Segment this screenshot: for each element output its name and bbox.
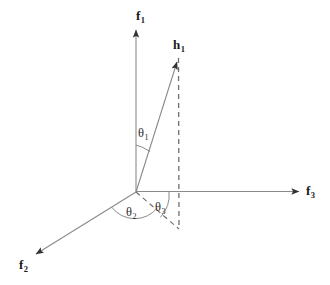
f3-label-subscript: 3	[311, 190, 315, 200]
f2-label-subscript: 2	[24, 264, 28, 274]
f2-axis-label: f2	[19, 258, 28, 271]
f3-label-main: f	[306, 183, 310, 198]
f3-axis-label: f3	[306, 184, 315, 197]
f1-label-subscript: 1	[141, 15, 145, 25]
theta-2-label: θ2	[126, 206, 136, 219]
f1-label-main: f	[136, 8, 140, 23]
theta-2-symbol: θ	[126, 205, 132, 219]
h1-vector-label: h1	[173, 38, 184, 51]
h1-label-main: h	[173, 37, 180, 52]
theta-3-subscript: 3	[162, 207, 166, 216]
f2-axis-line	[36, 192, 136, 254]
h1-vertical-projection-line	[179, 58, 180, 229]
h1-label-subscript: 1	[181, 44, 185, 54]
vector-diagram-figure: f1 h1 f3 f2 θ1 θ2 θ3	[0, 0, 330, 285]
f1-axis-label: f1	[136, 9, 145, 22]
theta-1-symbol: θ	[138, 126, 144, 140]
theta-2-subscript: 2	[133, 212, 137, 221]
theta-1-label: θ1	[138, 127, 148, 140]
theta-3-label: θ3	[155, 201, 165, 214]
theta-1-subscript: 1	[145, 133, 149, 142]
theta-1-arc	[136, 145, 150, 152]
f2-label-main: f	[19, 257, 23, 272]
vector-diagram-canvas	[0, 0, 330, 285]
theta-3-symbol: θ	[155, 200, 161, 214]
